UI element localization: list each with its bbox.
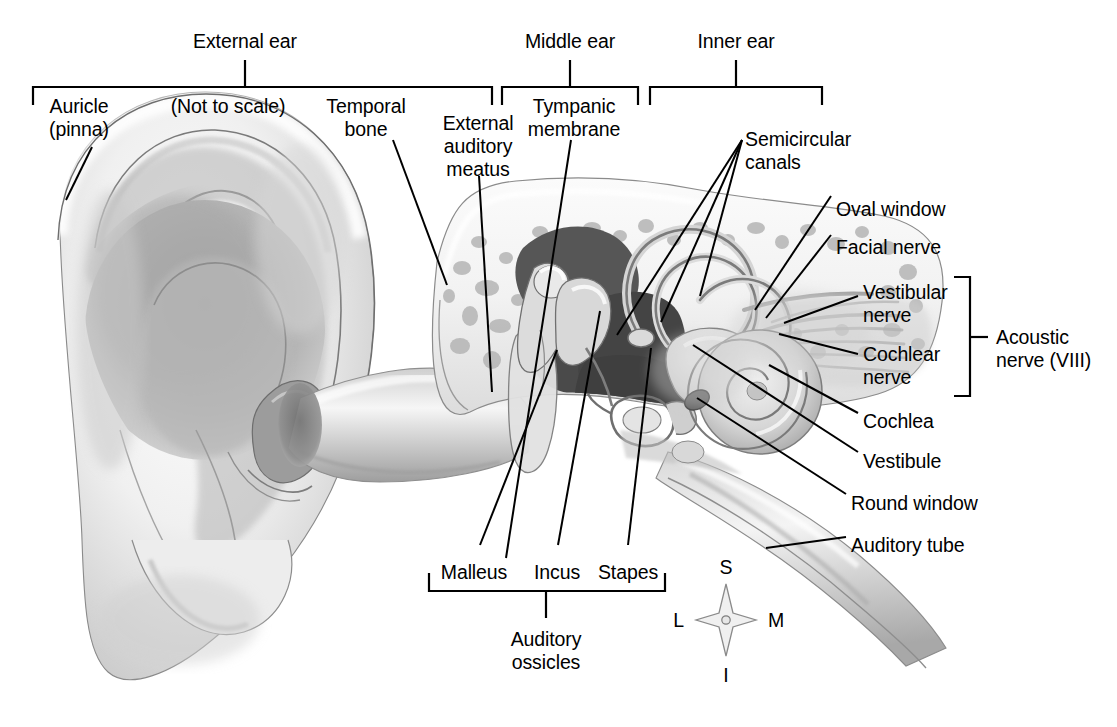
leader-line-semicircular-canals-a (617, 140, 742, 335)
compass-label-lateral: L (673, 609, 684, 631)
leader-lines (66, 140, 858, 558)
label-tympanic-membrane: Tympanic membrane (528, 95, 620, 141)
auditory-ossicles-label: Auditory ossicles (511, 628, 582, 674)
leader-line-external-auditory-meatus (479, 176, 492, 392)
label-malleus: Malleus (441, 561, 508, 584)
region-label-middle-ear: Middle ear (525, 30, 615, 53)
leader-line-incus (558, 311, 600, 545)
compass-label-medial: M (768, 609, 784, 631)
leader-line-semicircular-canals-b (661, 140, 742, 322)
leader-line-vestibular-nerve (784, 296, 858, 323)
figure-canvas: SILM Auricle (pinna)Temporal boneExterna… (0, 0, 1117, 727)
label-cochlea: Cochlea (863, 410, 934, 433)
label-stapes: Stapes (598, 561, 658, 584)
label-facial-nerve: Facial nerve (836, 236, 941, 259)
leader-line-auricle-pinna (66, 147, 92, 200)
leader-line-cochlear-nerve (779, 334, 858, 354)
leader-line-auditory-tube (766, 537, 846, 548)
label-auditory-tube: Auditory tube (851, 534, 965, 557)
leader-line-tympanic-membrane (506, 140, 571, 558)
label-semicircular-canals: Semicircular canals (745, 128, 851, 174)
leader-line-stapes (628, 348, 651, 545)
leader-line-temporal-bone (393, 140, 447, 285)
leader-line-vestibule (693, 345, 858, 452)
compass-label-inferior: I (723, 664, 728, 686)
bracket-inner-ear (650, 87, 822, 105)
region-label-external-ear: External ear (193, 30, 297, 53)
not-to-scale-note: (Not to scale) (171, 95, 286, 118)
compass-hub-icon (722, 616, 730, 624)
leader-line-oval-window (755, 196, 831, 310)
label-vestibule: Vestibule (863, 450, 941, 473)
acoustic-nerve-label: Acoustic nerve (VIII) (996, 326, 1091, 372)
label-external-auditory-meatus: External auditory meatus (443, 112, 514, 181)
leader-line-round-window (697, 398, 846, 494)
label-round-window: Round window (851, 492, 978, 515)
label-cochlear-nerve: Cochlear nerve (863, 343, 940, 389)
label-temporal-bone: Temporal bone (326, 95, 405, 141)
compass-label-superior: S (719, 556, 732, 578)
leader-line-cochlea (769, 365, 858, 413)
bracket-acoustic-nerve (954, 277, 970, 396)
label-vestibular-nerve: Vestibular nerve (863, 281, 948, 327)
label-oval-window: Oval window (836, 198, 945, 221)
label-incus: Incus (534, 561, 580, 584)
orientation-compass-icon: SILM (673, 556, 784, 686)
region-label-inner-ear: Inner ear (697, 30, 774, 53)
label-auricle-pinna: Auricle (pinna) (49, 95, 109, 141)
leader-line-facial-nerve (766, 235, 831, 318)
